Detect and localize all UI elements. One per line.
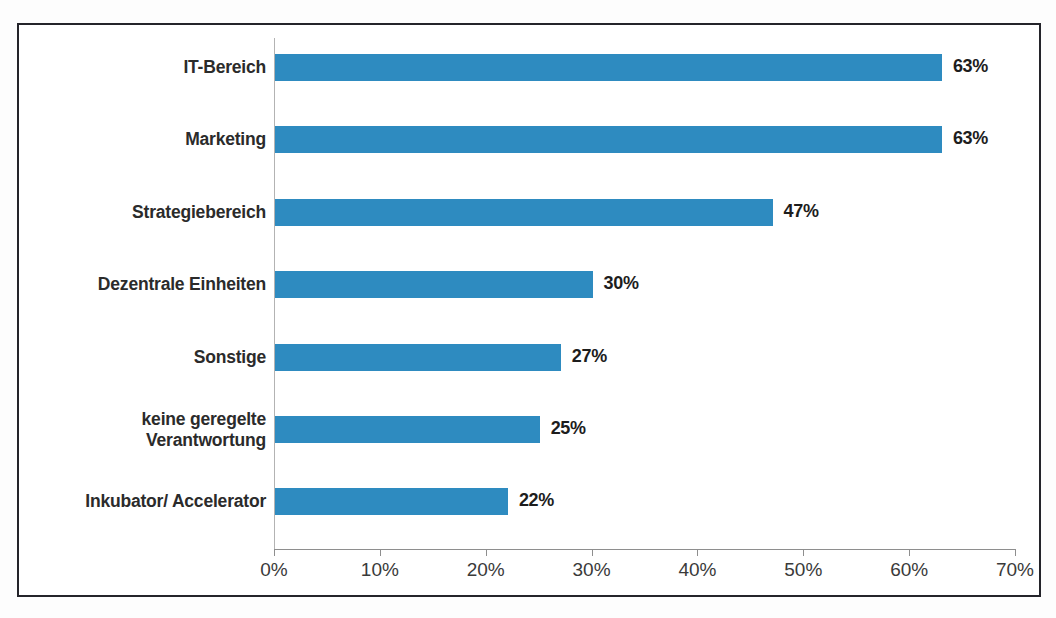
bar-row: keine geregelteVerantwortung25% [19,402,1039,474]
category-label: Strategiebereich [0,202,266,223]
bar-row: Dezentrale Einheiten30% [19,257,1039,329]
bar-value-label: 63% [953,128,988,149]
x-axis-tick-label: 50% [784,559,822,581]
category-label: keine geregelteVerantwortung [0,409,266,451]
category-label: Sonstige [0,347,266,368]
x-axis-line [274,549,1016,550]
bar[interactable] [275,199,773,226]
x-axis-tick [909,549,910,556]
x-axis-tick-label: 30% [573,559,611,581]
x-axis-tick [1015,549,1016,556]
x-axis-tick-label: 70% [996,559,1034,581]
category-label-line: Verantwortung [0,430,266,451]
x-axis-tick [274,549,275,556]
x-axis-tick-label: 10% [361,559,399,581]
x-axis-tick [380,549,381,556]
x-axis-tick-label: 0% [260,559,287,581]
category-label: IT-Bereich [0,57,266,78]
bar[interactable] [275,488,508,515]
bar[interactable] [275,271,593,298]
category-label: Marketing [0,129,266,150]
x-axis-tick [486,549,487,556]
bar-value-label: 25% [551,418,586,439]
x-axis-tick [592,549,593,556]
bar-value-label: 63% [953,56,988,77]
bar-row: Strategiebereich47% [19,185,1039,257]
bar-value-label: 47% [784,201,819,222]
bar-row: Marketing63% [19,112,1039,184]
chart-figure: IT-Bereich63%Marketing63%Strategiebereic… [0,0,1056,618]
chart-frame: IT-Bereich63%Marketing63%Strategiebereic… [17,23,1041,597]
x-axis-tick-label: 20% [467,559,505,581]
category-label-line: Dezentrale Einheiten [0,274,266,295]
x-axis-tick-label: 40% [678,559,716,581]
bar[interactable] [275,54,942,81]
category-label-line: IT-Bereich [0,57,266,78]
category-label-line: keine geregelte [0,409,266,430]
category-label-line: Strategiebereich [0,202,266,223]
bar[interactable] [275,344,561,371]
bar-row: Inkubator/ Accelerator22% [19,474,1039,546]
category-label-line: Inkubator/ Accelerator [0,491,266,512]
bar[interactable] [275,126,942,153]
x-axis-tick-label: 60% [890,559,928,581]
bar-row: Sonstige27% [19,330,1039,402]
bar-value-label: 27% [572,346,607,367]
bar-value-label: 22% [519,490,554,511]
category-label-line: Sonstige [0,347,266,368]
x-axis-tick [803,549,804,556]
category-label-line: Marketing [0,129,266,150]
bar-row: IT-Bereich63% [19,40,1039,112]
category-label: Dezentrale Einheiten [0,274,266,295]
x-axis-tick [697,549,698,556]
bar-value-label: 30% [604,273,639,294]
category-label: Inkubator/ Accelerator [0,491,266,512]
bar[interactable] [275,416,540,443]
